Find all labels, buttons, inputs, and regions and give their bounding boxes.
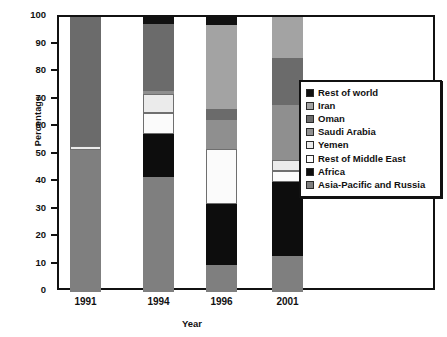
y-tick-label: 80 bbox=[20, 64, 46, 75]
bar-segment bbox=[206, 109, 237, 120]
bar-segment bbox=[70, 17, 101, 146]
bar-segment bbox=[143, 134, 174, 177]
legend-item-4[interactable]: Yemen bbox=[306, 139, 435, 152]
y-tick-label: 100 bbox=[20, 9, 46, 20]
legend-swatch-icon bbox=[306, 128, 314, 136]
x-axis-title: Year bbox=[57, 318, 327, 329]
x-tick-label-2001: 2001 bbox=[258, 296, 318, 307]
bar-1996 bbox=[206, 17, 237, 292]
chart-legend: Rest of worldIranOmanSaudi ArabiaYemenRe… bbox=[299, 80, 442, 198]
legend-swatch-icon bbox=[306, 155, 314, 163]
y-tick-label: 90 bbox=[20, 37, 46, 48]
legend-swatch-icon bbox=[306, 168, 314, 176]
legend-item-7[interactable]: Asia-Pacific and Russia bbox=[306, 178, 435, 191]
x-tick-label-1994: 1994 bbox=[129, 296, 189, 307]
legend-item-label: Rest of Middle East bbox=[318, 154, 406, 164]
bar-segment bbox=[206, 120, 237, 149]
stacked-bar-chart-figure: Percentage 1009080706050403020100 199119… bbox=[0, 0, 447, 337]
y-tick-label: 70 bbox=[20, 92, 46, 103]
legend-item-6[interactable]: Africa bbox=[306, 165, 435, 178]
legend-swatch-icon bbox=[306, 89, 314, 97]
legend-item-label: Asia-Pacific and Russia bbox=[318, 180, 425, 190]
legend-item-label: Saudi Arabia bbox=[318, 127, 376, 137]
legend-swatch-icon bbox=[306, 181, 314, 189]
y-tick-label: 10 bbox=[20, 257, 46, 268]
bar-segment bbox=[143, 17, 174, 24]
legend-item-2[interactable]: Oman bbox=[306, 112, 435, 125]
legend-item-label: Oman bbox=[318, 114, 345, 124]
legend-item-label: Yemen bbox=[318, 140, 349, 150]
y-tick-label: 40 bbox=[20, 174, 46, 185]
y-tick-label: 30 bbox=[20, 202, 46, 213]
legend-swatch-icon bbox=[306, 141, 314, 149]
bar-segment bbox=[206, 25, 237, 109]
x-tick-label-1991: 1991 bbox=[56, 296, 116, 307]
legend-item-1[interactable]: Iran bbox=[306, 99, 435, 112]
bar-segment bbox=[143, 94, 174, 113]
bar-segment bbox=[143, 113, 174, 134]
bar-segment bbox=[143, 24, 174, 91]
bar-segment bbox=[70, 146, 101, 150]
legend-item-0[interactable]: Rest of world bbox=[306, 86, 435, 99]
bar-segment bbox=[143, 91, 174, 94]
bar-segment bbox=[272, 256, 303, 292]
bar-segment bbox=[272, 17, 303, 58]
bar-segment bbox=[143, 177, 174, 293]
legend-item-label: Africa bbox=[318, 167, 345, 177]
bar-segment bbox=[70, 150, 101, 292]
y-tick-label: 0 bbox=[20, 284, 46, 295]
bar-segment bbox=[206, 204, 237, 265]
bar-1994 bbox=[143, 17, 174, 292]
legend-item-label: Iran bbox=[318, 101, 335, 111]
bar-1991 bbox=[70, 17, 101, 292]
x-tick-label-1996: 1996 bbox=[192, 296, 252, 307]
legend-swatch-icon bbox=[306, 115, 314, 123]
y-tick-label: 20 bbox=[20, 229, 46, 240]
bar-segment bbox=[206, 265, 237, 293]
bar-segment bbox=[206, 17, 237, 25]
legend-item-label: Rest of world bbox=[318, 88, 378, 98]
legend-item-5[interactable]: Rest of Middle East bbox=[306, 152, 435, 165]
legend-item-3[interactable]: Saudi Arabia bbox=[306, 126, 435, 139]
bar-segment bbox=[206, 149, 237, 204]
legend-swatch-icon bbox=[306, 102, 314, 110]
y-tick-label: 60 bbox=[20, 119, 46, 130]
y-tick-label: 50 bbox=[20, 147, 46, 158]
